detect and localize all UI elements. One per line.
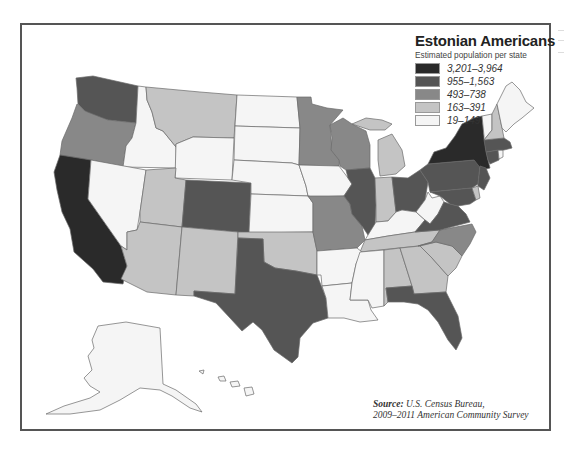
source-line1: U.S. Census Bureau, (406, 399, 485, 409)
state-new-jersey[interactable] (478, 166, 490, 190)
source-line2: 2009–2011 American Community Survey (373, 410, 529, 420)
state-hawaii[interactable] (199, 370, 254, 396)
legend-label: 955–1,563 (447, 76, 494, 87)
legend-swatch (415, 89, 440, 100)
legend-item: 493–738 (415, 88, 555, 101)
state-colorado[interactable] (182, 180, 251, 233)
legend-swatch (415, 63, 440, 74)
state-north-dakota[interactable] (235, 95, 300, 128)
state-new-mexico[interactable] (176, 227, 238, 296)
legend-swatch (415, 76, 440, 87)
state-alaska[interactable] (46, 322, 202, 414)
state-south-dakota[interactable] (234, 126, 300, 165)
legend-label: 19–149 (447, 115, 480, 126)
side-decoration (558, 52, 564, 53)
state-kansas[interactable] (249, 194, 313, 233)
legend-swatch (415, 115, 440, 126)
legend-item: 3,201–3,964 (415, 62, 555, 75)
side-decoration (558, 40, 564, 41)
state-iowa[interactable] (299, 165, 352, 197)
legend-label: 493–738 (447, 89, 486, 100)
legend-swatch (415, 102, 440, 113)
state-massachusetts[interactable] (484, 138, 512, 152)
legend-item: 19–149 (415, 114, 555, 127)
legend-item: 163–391 (415, 101, 555, 114)
legend-label: 3,201–3,964 (447, 63, 503, 74)
side-decoration (558, 30, 564, 31)
state-wyoming[interactable] (175, 137, 234, 180)
legend: Estonian Americans Estimated population … (415, 33, 555, 127)
source-note: Source: U.S. Census Bureau, 2009–2011 Am… (373, 399, 529, 421)
state-rhode-island[interactable] (498, 150, 503, 159)
source-prefix: Source: (373, 399, 404, 409)
state-pennsylvania[interactable] (420, 160, 480, 192)
legend-title: Estonian Americans (415, 33, 555, 49)
state-florida[interactable] (386, 286, 462, 350)
legend-subtitle: Estimated population per state (415, 50, 544, 60)
state-arizona[interactable] (121, 222, 182, 295)
legend-label: 163–391 (447, 102, 486, 113)
legend-item: 955–1,563 (415, 75, 555, 88)
